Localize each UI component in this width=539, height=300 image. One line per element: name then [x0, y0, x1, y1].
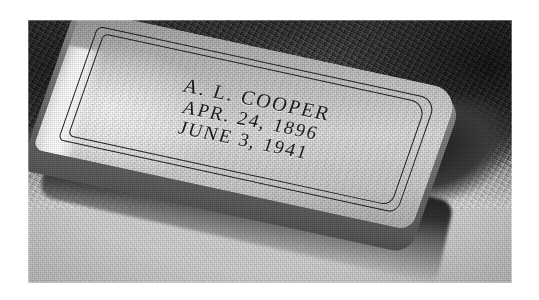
grave-marker-photograph: THE HALL BELL A. L. COOPER APR. 24, 1896…	[28, 20, 512, 283]
photo-print-page: THE HALL BELL A. L. COOPER APR. 24, 1896…	[0, 0, 539, 300]
